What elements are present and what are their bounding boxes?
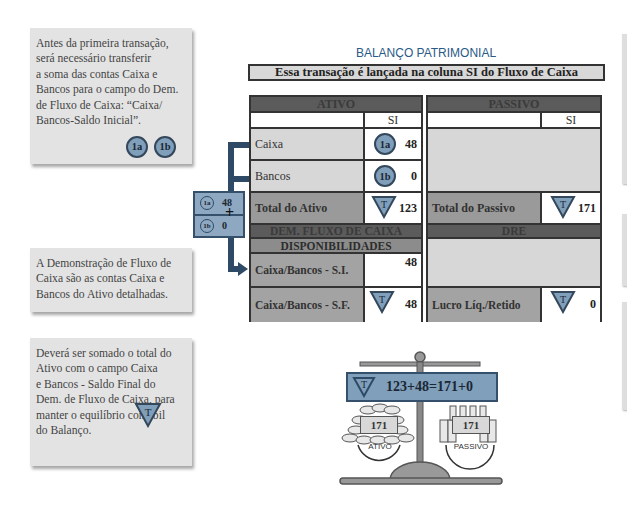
value-cell: 1b 0 — [363, 161, 421, 191]
svg-text:T: T — [379, 294, 385, 305]
ativo-row-caixa: Caixa 1a 48 — [251, 129, 421, 161]
arrow-right-icon — [238, 262, 248, 276]
ativo-panel: ATIVO SI Caixa 1a 48 Bancos 1b 0 Total d… — [249, 95, 423, 322]
badge-1a-icon: 1a — [200, 196, 214, 210]
note-card-dfc: A Demonstração de Fluxo de Caixa são as … — [30, 248, 192, 312]
dfc-subheader: DISPONIBILIDADES — [251, 239, 421, 254]
page-title: BALANÇO PATRIMONIAL — [246, 46, 606, 60]
passivo-row-total: Total do Passivo T 171 — [428, 193, 600, 225]
col-si: SI — [540, 113, 600, 127]
row-label: Total do Ativo — [251, 193, 363, 223]
value: 123 — [399, 201, 417, 216]
svg-text:T: T — [145, 406, 152, 418]
partial-note-card — [622, 214, 627, 286]
partial-note-card — [622, 302, 627, 410]
triangle-t-icon: T — [352, 376, 376, 402]
sum-value-b: 0 — [222, 220, 227, 231]
dfc-row-sf: Caixa/Bancos - S.F. T 48 — [251, 288, 421, 322]
row-label: Caixa — [251, 129, 363, 159]
note-text: A Demonstração de Fluxo de Caixa são as … — [36, 256, 186, 302]
passivo-panel: PASSIVO SI Total do Passivo T 171 DRE Lu… — [426, 95, 602, 322]
dfc-header: DEM. FLUXO DE CAIXA — [251, 225, 421, 239]
svg-text:T: T — [560, 199, 566, 210]
dre-empty-row — [428, 239, 600, 288]
value: 0 — [411, 169, 417, 184]
value: 48 — [405, 255, 417, 270]
row-label: Total do Passivo — [428, 193, 540, 223]
note-card-total: Deverá ser somado o total do Ativo com o… — [30, 338, 192, 466]
note-card-transfer: Antes da primeira transação, será necess… — [30, 28, 192, 164]
passivo-scale-label: PASSIVO — [448, 442, 494, 451]
sum-box: 1a 48 + 1b 0 — [193, 191, 245, 238]
equation-text: 123+48=171+0 — [386, 379, 473, 395]
passivo-col-header-row: SI — [428, 113, 600, 129]
badge-1b-icon: 1b — [200, 219, 214, 233]
value-cell: 1a 48 — [363, 129, 421, 159]
note-text: Antes da primeira transação, será necess… — [36, 36, 186, 128]
dre-row-lucro: Lucro Líq./Retido T 0 — [428, 288, 600, 322]
value: 171 — [578, 201, 596, 216]
value: 48 — [405, 137, 417, 152]
value-cell: T 48 — [363, 288, 421, 322]
triangle-t-icon: T — [550, 195, 576, 223]
row-label: Caixa/Bancos - S.I. — [251, 254, 363, 286]
badge-1b-icon: 1b — [154, 136, 176, 158]
col-si: SI — [363, 113, 421, 127]
value: 0 — [590, 297, 596, 312]
svg-text:T: T — [381, 199, 387, 210]
dre-header: DRE — [428, 225, 600, 239]
ativo-scale-value: 171 — [360, 416, 398, 434]
note-text: Deverá ser somado o total do Ativo com o… — [36, 346, 186, 438]
dfc-row-si: Caixa/Bancos - S.I. 48 — [251, 254, 421, 288]
row-label: Lucro Líq./Retido — [428, 288, 540, 322]
badge-1b-icon: 1b — [374, 165, 396, 187]
ativo-row-bancos: Bancos 1b 0 — [251, 161, 421, 193]
triangle-t-icon: T — [371, 195, 397, 223]
ativo-row-total: Total do Ativo T 123 — [251, 193, 421, 225]
passivo-empty-rows — [428, 129, 600, 193]
value-cell: T 171 — [540, 193, 600, 223]
value-cell: 48 — [363, 254, 421, 286]
triangle-t-icon: T — [550, 290, 576, 318]
passivo-header: PASSIVO — [428, 97, 600, 113]
passivo-scale-value: 171 — [452, 416, 490, 434]
badge-1a-icon: 1a — [374, 133, 396, 155]
ativo-scale-label: ATIVO — [362, 442, 398, 451]
balance-equation: T 123+48=171+0 — [346, 372, 498, 402]
ativo-col-header-row: SI — [251, 113, 421, 129]
balance-scale: 171 ATIVO 171 PASSIVO — [320, 350, 520, 490]
value-cell: T 0 — [540, 288, 600, 322]
transaction-caption: Essa transação é lançada na coluna SI do… — [248, 64, 605, 81]
divider — [195, 214, 243, 216]
triangle-t-icon: T — [134, 402, 162, 428]
triangle-t-icon: T — [369, 290, 395, 318]
value-cell: T 123 — [363, 193, 421, 223]
ativo-header: ATIVO — [251, 97, 421, 113]
row-label: Caixa/Bancos - S.F. — [251, 288, 363, 322]
partial-note-card — [622, 34, 627, 184]
value: 48 — [405, 297, 417, 312]
svg-text:T: T — [560, 294, 566, 305]
svg-text:T: T — [361, 379, 367, 390]
badge-1a-icon: 1a — [126, 136, 148, 158]
row-label: Bancos — [251, 161, 363, 191]
